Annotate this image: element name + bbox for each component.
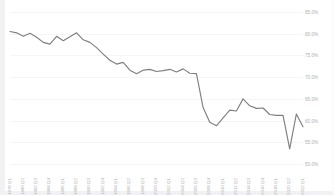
x-axis-tick-label: 2004 Q2	[180, 169, 185, 195]
chart-title-strip	[0, 0, 334, 7]
x-axis-tick-label: 2016 Q4	[260, 169, 265, 195]
x-axis-tick-label: 1980 Q2	[20, 169, 25, 195]
x-axis-tick-label: 1982 Q3	[33, 169, 38, 195]
x-axis-tick-label: 2020 Q2	[286, 169, 291, 195]
y-axis-tick-label: 85.0%	[305, 10, 334, 15]
plot-area	[10, 12, 303, 164]
gridline	[10, 164, 303, 165]
x-axis-tick-label: 2008 Q4	[206, 169, 211, 195]
y-axis-tick-label: 65.0%	[305, 96, 334, 101]
x-axis-tick-label: 1990 Q3	[86, 169, 91, 195]
series-polyline	[10, 32, 303, 149]
x-axis-tick-label: 1996 Q2	[126, 169, 131, 195]
y-axis-tick-label: 55.0%	[305, 140, 334, 145]
y-axis-labels: 85.0%80.0%75.0%70.0%65.0%60.0%55.0%50.0%	[305, 12, 334, 164]
y-axis-tick-label: 70.0%	[305, 75, 334, 80]
x-axis-tick-label: 1998 Q3	[140, 169, 145, 195]
y-axis-tick-label: 50.0%	[305, 162, 334, 167]
x-axis-tick-label: 1986 Q1	[60, 169, 65, 195]
x-axis-tick-label: 2014 Q3	[246, 169, 251, 195]
y-axis-tick-label: 80.0%	[305, 31, 334, 36]
x-axis-tick-label: 1992 Q4	[100, 169, 105, 195]
x-axis-labels: 1978 Q11980 Q21982 Q31984 Q41986 Q11988 …	[10, 166, 303, 195]
x-axis-tick-label: 2018 Q1	[273, 169, 278, 195]
x-axis-tick-label: 1994 Q1	[113, 169, 118, 195]
x-axis-tick-label: 2000 Q4	[153, 169, 158, 195]
x-axis-tick-label: 2012 Q2	[233, 169, 238, 195]
series-line	[10, 12, 303, 164]
x-axis-tick-label: 2002 Q1	[166, 169, 171, 195]
x-axis-tick-label: 1984 Q4	[46, 169, 51, 195]
y-axis-tick-label: 60.0%	[305, 118, 334, 123]
x-axis-tick-label: 1978 Q1	[7, 169, 12, 195]
x-axis-tick-label: 2006 Q3	[193, 169, 198, 195]
y-axis-tick-label: 75.0%	[305, 53, 334, 58]
x-axis-tick-label: 1988 Q2	[73, 169, 78, 195]
x-axis-tick-label: 2010 Q1	[220, 169, 225, 195]
line-chart: 85.0%80.0%75.0%70.0%65.0%60.0%55.0%50.0%…	[0, 0, 334, 195]
x-axis-tick-label: 2022 Q1	[300, 169, 305, 195]
